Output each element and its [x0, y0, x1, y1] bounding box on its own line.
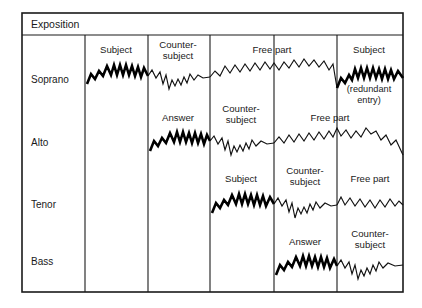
- alto-countersubject-label-line2: subject: [226, 114, 257, 125]
- alto-freepart-waveform: [274, 128, 403, 155]
- alto-answer-waveform: [150, 132, 210, 151]
- alto-freepart-label: Free part: [311, 112, 350, 123]
- soprano-countersubject-waveform: [148, 70, 210, 89]
- alto-answer-label: Answer: [162, 112, 195, 123]
- voice-label-bass: Bass: [31, 256, 53, 267]
- bass-countersubject-label-line1: Counter-: [351, 228, 388, 239]
- diagram-canvas: Exposition Soprano Alto Tenor Bass Subje…: [0, 0, 422, 308]
- soprano-freepart-label: Free part: [253, 44, 292, 55]
- soprano-subject-label: Subject: [100, 44, 132, 55]
- tenor-freepart-label: Free part: [351, 173, 390, 184]
- outer-frame: [22, 13, 403, 292]
- bass-answer-waveform: [276, 256, 337, 275]
- soprano-subject2-label: Subject: [353, 44, 385, 55]
- tenor-countersubject-label-line2: subject: [290, 176, 321, 187]
- bass-countersubject-waveform: [337, 260, 403, 279]
- tenor-countersubject-waveform: [274, 198, 337, 218]
- tenor-subject-label: Subject: [225, 173, 257, 184]
- bass-answer-label: Answer: [289, 236, 322, 247]
- fugue-exposition-diagram: Exposition Soprano Alto Tenor Bass Subje…: [0, 0, 422, 308]
- tenor-countersubject-label-line1: Counter-: [286, 165, 323, 176]
- alto-countersubject-label-line1: Counter-: [222, 103, 259, 114]
- soprano-countersubject-label-line2: subject: [163, 50, 194, 61]
- voice-label-alto: Alto: [31, 137, 49, 148]
- bass-countersubject-label-line2: subject: [355, 239, 386, 250]
- tenor-freepart-waveform: [337, 197, 403, 208]
- soprano-redundant-note-line2: entry): [357, 95, 381, 105]
- soprano-countersubject-label-line1: Counter-: [159, 39, 196, 50]
- soprano-redundant-note-line1: (redundant: [347, 84, 392, 94]
- alto-countersubject-waveform: [210, 136, 274, 155]
- voice-label-soprano: Soprano: [31, 74, 69, 85]
- tenor-subject-waveform: [212, 194, 274, 213]
- voice-label-tenor: Tenor: [31, 199, 57, 210]
- section-title: Exposition: [31, 18, 80, 30]
- soprano-subject-waveform: [87, 65, 148, 84]
